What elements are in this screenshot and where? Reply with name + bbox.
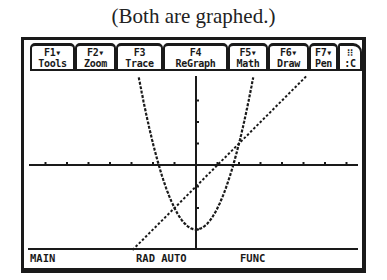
function-key-toolbar: F1▾ Tools F2▾ Zoom F3 Trace F4 ReGraph F… xyxy=(30,43,360,73)
tab-key: F1▾ xyxy=(44,47,61,58)
tab-f7-pen[interactable]: F7▾ Pen xyxy=(309,43,338,71)
graph-area xyxy=(24,40,362,268)
tab-f3-trace[interactable]: F3 Trace xyxy=(116,43,163,71)
tab-key: ⁝⁝ xyxy=(347,47,352,58)
status-angle-mode: RAD AUTO xyxy=(136,252,187,264)
tab-f4-regraph[interactable]: F4 ReGraph xyxy=(163,43,228,71)
tab-label: Math xyxy=(237,58,260,69)
tab-label: ReGraph xyxy=(175,58,215,69)
tab-label: Trace xyxy=(125,58,154,69)
tab-f5-math[interactable]: F5▾ Math xyxy=(228,43,268,71)
tab-key: F5▾ xyxy=(239,47,256,58)
caption: (Both are graphed.) xyxy=(0,4,387,29)
tab-f6-draw[interactable]: F6▾ Draw xyxy=(268,43,309,71)
tab-key: F7▾ xyxy=(315,47,332,58)
status-bar: MAIN RAD AUTO FUNC xyxy=(28,248,358,267)
tab-key: F3 xyxy=(134,47,145,58)
tab-label: Zoom xyxy=(84,58,107,69)
status-graph-mode: FUNC xyxy=(240,252,265,264)
tab-label: :C xyxy=(344,58,355,69)
tab-f1-tools[interactable]: F1▾ Tools xyxy=(30,43,75,71)
tab-label: Pen xyxy=(315,58,332,69)
calculator-screen: F1▾ Tools F2▾ Zoom F3 Trace F4 ReGraph F… xyxy=(21,37,366,273)
tab-key: F6▾ xyxy=(280,47,297,58)
tab-key: F2▾ xyxy=(87,47,104,58)
tab-label: Tools xyxy=(38,58,67,69)
tab-f8-clear[interactable]: ⁝⁝ :C xyxy=(338,43,362,71)
status-folder: MAIN xyxy=(30,252,55,264)
tab-label: Draw xyxy=(277,58,300,69)
tab-f2-zoom[interactable]: F2▾ Zoom xyxy=(75,43,116,71)
tab-key: F4 xyxy=(190,47,201,58)
